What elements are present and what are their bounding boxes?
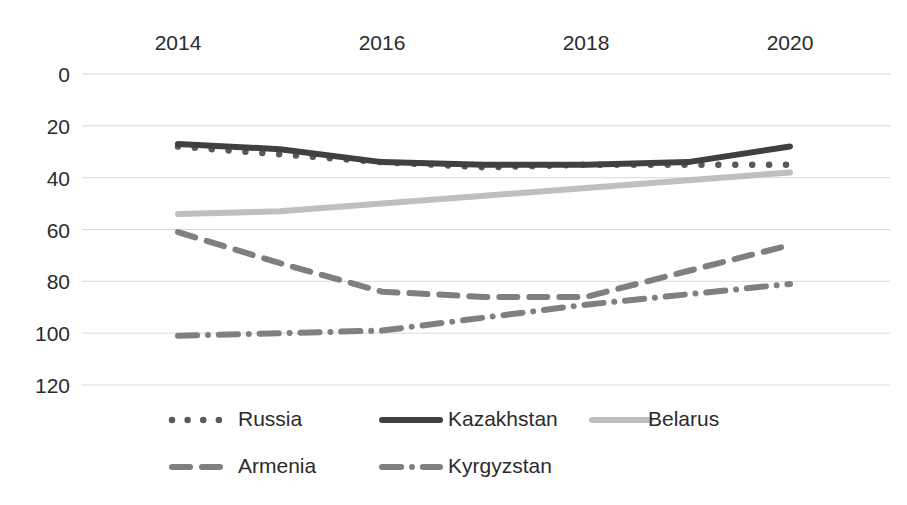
legend-label-armenia[interactable]: Armenia: [238, 454, 317, 477]
series-line-belarus: [178, 172, 790, 213]
chart-legend: RussiaKazakhstanBelarusArmeniaKyrgyzstan: [172, 407, 719, 477]
y-axis-tick-label: 100: [35, 322, 70, 345]
x-axis-tick-label: 2014: [155, 31, 202, 54]
x-axis-tick-label: 2020: [767, 31, 814, 54]
series-line-kyrgyzstan: [178, 284, 790, 336]
chart-svg: 020406080100120 2014201620182020 RussiaK…: [0, 0, 907, 505]
x-axis-tick-label: 2016: [359, 31, 406, 54]
legend-label-kyrgyzstan[interactable]: Kyrgyzstan: [448, 454, 552, 477]
series-line-armenia: [178, 232, 790, 297]
series-line-kazakhstan: [178, 144, 790, 165]
y-axis-tick-label: 40: [47, 167, 70, 190]
legend-label-kazakhstan[interactable]: Kazakhstan: [448, 407, 558, 430]
y-axis-tick-label: 80: [47, 270, 70, 293]
data-series-group: [178, 144, 790, 336]
x-axis-tick-label: 2018: [563, 31, 610, 54]
gridlines: [82, 74, 890, 385]
legend-label-russia[interactable]: Russia: [238, 407, 303, 430]
y-axis-tick-labels: 020406080100120: [35, 63, 70, 397]
y-axis-tick-label: 60: [47, 219, 70, 242]
plot-area: 020406080100120 2014201620182020 RussiaK…: [0, 0, 907, 505]
legend-label-belarus[interactable]: Belarus: [648, 407, 719, 430]
y-axis-tick-label: 0: [58, 63, 70, 86]
chart-container: 020406080100120 2014201620182020 RussiaK…: [0, 0, 907, 505]
y-axis-tick-label: 20: [47, 115, 70, 138]
x-axis-tick-labels: 2014201620182020: [155, 31, 814, 54]
y-axis-tick-label: 120: [35, 374, 70, 397]
